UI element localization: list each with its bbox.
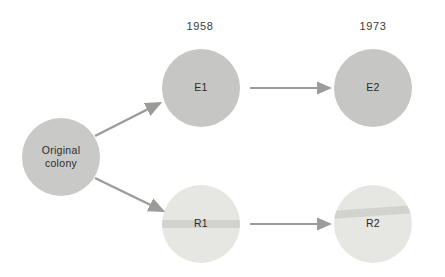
diagram-canvas — [0, 0, 445, 277]
node-label-original-colony-line2: colony — [45, 157, 77, 169]
arrow-original-to-e1 — [95, 103, 160, 136]
year-label-1973: 1973 — [343, 20, 403, 32]
node-label-e2: E2 — [338, 81, 408, 94]
node-label-original-colony-line1: Original — [42, 144, 81, 156]
node-label-r1: R1 — [166, 217, 236, 230]
arrow-original-to-r1 — [95, 178, 163, 211]
node-label-e1: E1 — [166, 81, 236, 94]
colony-divergence-diagram: 1958 1973 Original colony E1 E2 R1 R2 — [0, 0, 445, 277]
node-label-original-colony: Original colony — [26, 144, 96, 170]
year-label-1958: 1958 — [170, 20, 230, 32]
node-label-r2: R2 — [338, 217, 408, 230]
